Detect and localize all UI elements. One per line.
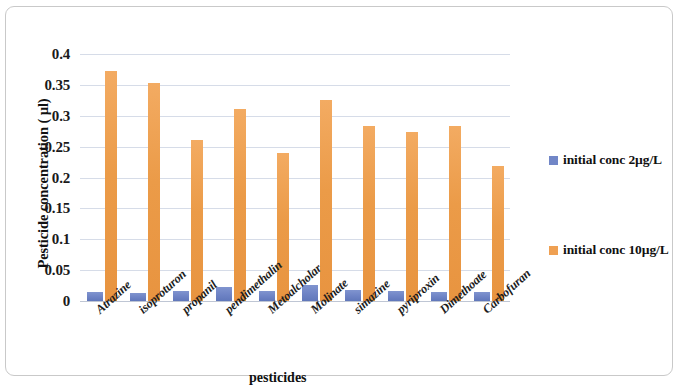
plot-area <box>80 54 510 301</box>
bar-series-b <box>191 140 203 301</box>
bar-group <box>431 54 461 301</box>
bar-group <box>388 54 418 301</box>
x-axis-title: pesticides <box>249 370 307 386</box>
bar-series-b <box>492 166 504 301</box>
y-axis-tick-label: 0.25 <box>45 138 70 155</box>
legend-swatch-series-a <box>549 156 558 165</box>
bar-series-b <box>234 109 246 301</box>
bar-series-b <box>277 153 289 301</box>
y-axis-tick-label: 0.15 <box>45 200 70 217</box>
chart-figure-frame: Pesticide concentration ( µl) 0.40.350.3… <box>5 6 673 376</box>
legend-label-series-b: initial conc 10µg/L <box>563 242 669 258</box>
bar-series-b <box>148 83 160 301</box>
legend-label-series-a: initial conc 2µg/L <box>563 152 662 168</box>
bar-group <box>87 54 117 301</box>
y-axis-tick-label: 0.1 <box>52 231 70 248</box>
legend-entry-series-a: initial conc 2µg/L <box>549 152 662 168</box>
bar-group <box>130 54 160 301</box>
y-axis-tick-label: 0.2 <box>52 169 70 186</box>
legend-entry-series-b: initial conc 10µg/L <box>549 242 669 258</box>
bar-group <box>173 54 203 301</box>
legend-swatch-series-b <box>549 246 558 255</box>
y-axis-tick-label: 0.3 <box>52 107 70 124</box>
bar-series-b <box>406 132 418 301</box>
y-axis-tick-label: 0.35 <box>45 76 70 93</box>
y-axis-tick-label: 0 <box>63 293 70 310</box>
bar-group <box>345 54 375 301</box>
bar-series-b <box>105 71 117 301</box>
bar-group <box>474 54 504 301</box>
y-axis-tick-labels: 0.40.350.30.250.20.150.10.050 <box>6 54 76 301</box>
y-axis-tick-label: 0.05 <box>45 262 70 279</box>
bar-series-b <box>363 126 375 301</box>
bar-series-b <box>449 126 461 301</box>
y-axis-tick-label: 0.4 <box>52 46 70 63</box>
bar-group <box>216 54 246 301</box>
